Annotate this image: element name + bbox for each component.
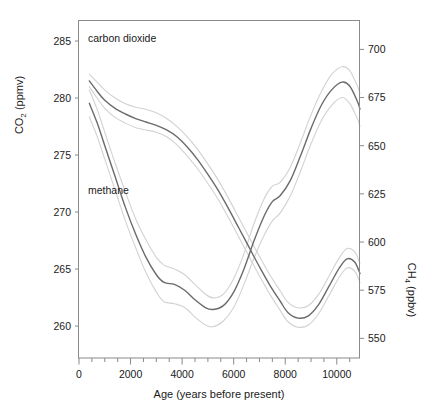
left-tick-label: 280 <box>53 92 71 104</box>
left-axis-title-units: (ppmv) <box>13 76 25 113</box>
right-tick-label: 575 <box>368 284 386 296</box>
left-tick-label: 270 <box>53 206 71 218</box>
series-label-methane: methane <box>88 184 129 196</box>
chart-figure: 260265270275280285 550575600625650675700… <box>0 0 427 415</box>
right-tick-label: 600 <box>368 236 386 248</box>
right-tick-label: 550 <box>368 332 386 344</box>
right-axis-title-base: CH <box>406 263 418 279</box>
x-tick-label: 0 <box>76 368 82 380</box>
right-tick-label: 700 <box>368 43 386 55</box>
left-tick-label: 285 <box>53 35 71 47</box>
x-tick-label: 10000 <box>322 368 351 380</box>
left-tick-label: 275 <box>53 149 71 161</box>
series-label-carbon-dioxide: carbon dioxide <box>88 32 156 44</box>
x-tick-label: 2000 <box>119 368 143 380</box>
right-tick-label: 650 <box>368 140 386 152</box>
right-tick-label: 675 <box>368 91 386 103</box>
x-tick-label: 4000 <box>170 368 194 380</box>
x-axis-title: Age (years before present) <box>154 388 285 400</box>
left-tick-label: 265 <box>53 263 71 275</box>
right-tick-label: 625 <box>368 188 386 200</box>
left-tick-label: 260 <box>53 320 71 332</box>
x-tick-label: 6000 <box>222 368 246 380</box>
left-axis-title-base: CO <box>13 117 25 134</box>
x-tick-label: 8000 <box>274 368 298 380</box>
co2-ch4-timeseries-chart: 260265270275280285 550575600625650675700… <box>0 0 427 415</box>
right-axis-title-units: (ppbv) <box>406 283 418 317</box>
